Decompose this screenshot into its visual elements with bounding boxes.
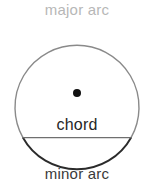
chord-label: chord [0,116,154,134]
minor-arc-label: minor arc [0,165,154,182]
circle-diagram: major arc chord minor arc [0,0,154,191]
center-dot [73,89,81,97]
circle-graphic [0,0,154,191]
